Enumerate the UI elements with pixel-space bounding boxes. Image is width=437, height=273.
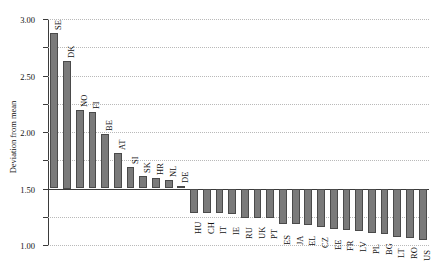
bar-rect xyxy=(241,189,249,218)
bar-rect xyxy=(393,189,401,237)
bar-sk[interactable]: SK xyxy=(139,19,147,245)
y-tick-label: 3.00 xyxy=(20,15,35,25)
bar-label-ie: IE xyxy=(232,235,240,244)
y-tick-label: 2.50 xyxy=(20,72,35,82)
bar-label-pl: PL xyxy=(372,254,382,263)
bar-label-text: IE xyxy=(232,227,241,235)
bar-rect xyxy=(317,189,325,227)
bar-ro[interactable]: RO xyxy=(406,19,414,245)
bar-label-text: HR xyxy=(156,163,165,175)
bar-chart: Deviation from mean 3.002.502.001.501.00… xyxy=(0,0,437,273)
bar-label-text: UK xyxy=(258,227,267,239)
bar-pt[interactable]: PT xyxy=(266,19,274,245)
bar-label-cz: CZ xyxy=(321,248,332,257)
bar-ja[interactable]: JA xyxy=(292,19,300,245)
bar-rect xyxy=(343,189,351,231)
bar-rect xyxy=(355,189,363,231)
bar-label-lt: LT xyxy=(397,258,407,267)
bar-label-text: CZ xyxy=(321,237,330,248)
bar-label-text: CH xyxy=(207,222,216,234)
bar-label-text: RU xyxy=(245,227,254,239)
bar-lt[interactable]: LT xyxy=(393,19,401,245)
bar-label-text: BE xyxy=(105,120,114,131)
bar-rect xyxy=(381,189,389,235)
y-tick-label: 2.00 xyxy=(20,128,35,138)
bar-label-text: US xyxy=(423,251,432,262)
bar-label-text: NL xyxy=(169,166,178,177)
bar-label-bg: BG xyxy=(385,255,397,264)
bar-rect xyxy=(292,189,300,225)
bar-label-text: BG xyxy=(385,243,394,255)
bar-label-text: SI xyxy=(131,156,140,164)
bar-label-fi: FI xyxy=(92,109,100,118)
bar-no[interactable]: NO xyxy=(76,19,84,245)
bar-nl[interactable]: NL xyxy=(165,19,173,245)
bar-el[interactable]: EL xyxy=(304,19,312,245)
bar-rect xyxy=(190,189,198,213)
bar-rect xyxy=(368,189,376,234)
bar-label-text: DE xyxy=(181,172,190,183)
bar-label-ee: EE xyxy=(334,250,344,259)
bar-ru[interactable]: RU xyxy=(241,19,249,245)
bar-label-text: SE xyxy=(54,20,63,30)
bar-label-text: EE xyxy=(334,240,343,250)
bar-label-text: PL xyxy=(372,244,381,254)
bar-label-text: JA xyxy=(296,236,305,245)
bar-it[interactable]: IT xyxy=(216,19,224,245)
bar-cz[interactable]: CZ xyxy=(317,19,325,245)
bar-rect xyxy=(63,61,71,188)
y-tick-label: 1.50 xyxy=(20,185,35,195)
bar-label-text: DK xyxy=(67,46,76,58)
bar-hu[interactable]: HU xyxy=(190,19,198,245)
bar-label-si: SI xyxy=(131,164,139,173)
bar-rect xyxy=(203,189,211,213)
bar-rect xyxy=(76,110,84,189)
bar-si[interactable]: SI xyxy=(127,19,135,245)
y-axis-title: Deviation from mean xyxy=(6,0,20,273)
y-tick: -1.00 xyxy=(43,245,48,246)
bar-ie[interactable]: IE xyxy=(228,19,236,245)
bar-ch[interactable]: CH xyxy=(203,19,211,245)
bar-label-text: EL xyxy=(308,235,317,245)
bar-label-text: NO xyxy=(80,95,89,107)
bar-se[interactable]: SE xyxy=(50,19,58,245)
y-tick-label: 1.00 xyxy=(20,241,35,251)
bar-label-ro: RO xyxy=(410,259,422,268)
bar-fr[interactable]: FR xyxy=(343,19,351,245)
bar-rect xyxy=(419,189,427,241)
bar-at[interactable]: AT xyxy=(114,19,122,245)
bar-es[interactable]: ES xyxy=(279,19,287,245)
bar-label-text: FR xyxy=(346,241,355,251)
bar-lv[interactable]: LV xyxy=(355,19,363,245)
bar-rect xyxy=(89,112,97,188)
bar-hr[interactable]: HR xyxy=(152,19,160,245)
bar-us[interactable]: US xyxy=(419,19,427,245)
bar-rect xyxy=(330,189,338,230)
bar-label-text: HU xyxy=(194,222,203,234)
bar-label-text: LT xyxy=(397,248,406,258)
bar-be[interactable]: BE xyxy=(101,19,109,245)
bar-rect xyxy=(50,33,58,189)
bar-label-es: ES xyxy=(283,245,293,254)
bar-rect xyxy=(228,189,236,214)
bar-label-text: SK xyxy=(143,162,152,173)
bar-label-text: RO xyxy=(410,247,419,259)
bar-fi[interactable]: FI xyxy=(89,19,97,245)
bar-uk[interactable]: UK xyxy=(254,19,262,245)
bar-label-text: FI xyxy=(92,102,101,110)
bar-label-ja: JA xyxy=(296,245,305,254)
bar-label-text: LV xyxy=(359,241,368,252)
bar-rect xyxy=(216,189,224,214)
bar-label-us: US xyxy=(423,261,434,270)
bar-bg[interactable]: BG xyxy=(381,19,389,245)
plot-area: 3.002.502.001.501.000.500.00-0.50-1.00 S… xyxy=(48,19,429,245)
bar-de[interactable]: DE xyxy=(177,19,185,245)
bar-rect xyxy=(254,189,262,218)
bar-label-text: IT xyxy=(219,226,228,234)
bar-dk[interactable]: DK xyxy=(63,19,71,245)
bar-label-text: AT xyxy=(118,140,127,150)
y-axis-title-label: Deviation from mean xyxy=(8,100,18,173)
bar-ee[interactable]: EE xyxy=(330,19,338,245)
bar-pl[interactable]: PL xyxy=(368,19,376,245)
bar-label-text: PT xyxy=(270,230,279,240)
